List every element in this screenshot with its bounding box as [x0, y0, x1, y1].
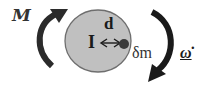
rigid-body-rotation-diagram: M I d δm ω̇	[0, 0, 210, 87]
mass-element-dot	[119, 39, 129, 49]
angular-acceleration-label: ω̇	[180, 45, 192, 61]
mass-element-label: δm	[132, 45, 152, 61]
distance-label: d	[104, 15, 113, 32]
moment-label: M	[12, 7, 31, 24]
moment-arrow-icon	[40, 9, 68, 66]
inertia-label: I	[88, 33, 95, 51]
